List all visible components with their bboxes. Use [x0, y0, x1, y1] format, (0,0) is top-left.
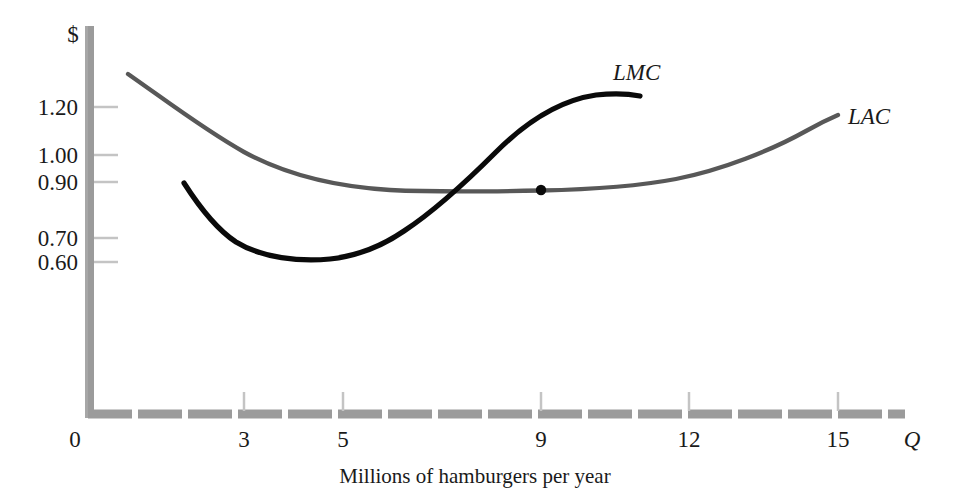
lmc-curve — [184, 94, 640, 260]
intersection-point-marker — [536, 185, 546, 195]
x-tick-label-12: 12 — [678, 427, 701, 452]
x-tick-label-5: 5 — [337, 427, 349, 452]
x-axis-ticks — [244, 392, 838, 411]
x-tick-label-3: 3 — [238, 427, 250, 452]
y-axis-ticks — [94, 107, 118, 262]
lac-curve-label: LAC — [847, 104, 891, 129]
y-axis — [85, 26, 94, 418]
y-tick-label-0.60: 0.60 — [38, 250, 78, 275]
x-tick-label-0: 0 — [69, 427, 81, 452]
figure-container: 1.20 1.00 0.90 0.70 0.60 $ 0 3 5 9 12 15… — [0, 0, 953, 504]
x-axis-variable-label: Q — [904, 427, 921, 452]
cost-curves-chart: 1.20 1.00 0.90 0.70 0.60 $ 0 3 5 9 12 15… — [0, 0, 953, 504]
x-axis-title: Millions of hamburgers per year — [339, 464, 610, 488]
y-tick-label-0.70: 0.70 — [38, 226, 78, 251]
y-axis-unit-symbol: $ — [67, 22, 79, 47]
x-tick-label-15: 15 — [827, 427, 850, 452]
lac-aux — [128, 74, 800, 222]
lmc-curve-label: LMC — [612, 60, 661, 85]
y-tick-label-1.20: 1.20 — [38, 95, 78, 120]
y-axis-highlight — [85, 26, 88, 418]
lac-curve — [128, 74, 838, 192]
x-tick-label-9: 9 — [535, 427, 547, 452]
lmc-aux — [184, 96, 640, 260]
y-tick-label-0.90: 0.90 — [38, 170, 78, 195]
y-tick-label-1.00: 1.00 — [38, 143, 78, 168]
